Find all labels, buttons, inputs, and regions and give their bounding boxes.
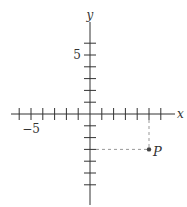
tick-labels: −55 xyxy=(22,48,81,136)
point-p xyxy=(147,147,151,151)
coordinate-plane: −55 P x y xyxy=(0,0,187,207)
x-tick-label: −5 xyxy=(22,122,40,136)
x-axis-label: x xyxy=(177,107,184,121)
y-axis-label: y xyxy=(86,8,94,22)
point-label: P xyxy=(152,144,162,159)
y-tick-label: 5 xyxy=(73,48,81,62)
